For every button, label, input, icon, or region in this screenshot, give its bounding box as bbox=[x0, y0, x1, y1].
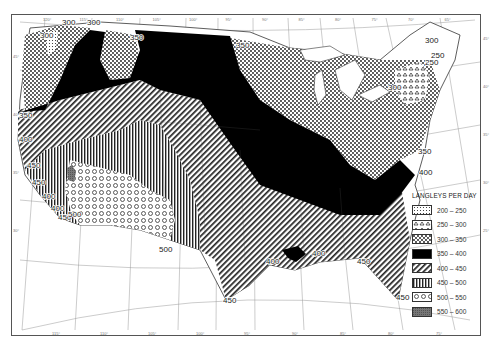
graticule-tick-label: 115° bbox=[80, 17, 88, 22]
isoline-label: 350 bbox=[130, 33, 144, 42]
isoline-label: 400 bbox=[419, 168, 433, 177]
graticule-tick-label: 115° bbox=[52, 331, 60, 336]
isoline-label: 350 bbox=[19, 111, 33, 120]
legend-item-450-500: 450 – 500 bbox=[412, 276, 488, 291]
graticule-tick-label: 120° bbox=[43, 17, 52, 22]
isoline-label: 500 bbox=[159, 245, 173, 254]
graticule-tick-label: 70° bbox=[408, 17, 414, 22]
graticule-tick-label: 95° bbox=[244, 331, 250, 336]
graticule-tick-label: 105° bbox=[148, 331, 157, 336]
graticule-tick-label: 30° bbox=[13, 228, 19, 233]
pattern-vertical-hatch-icon bbox=[412, 278, 432, 288]
graticule-tick-label: 110° bbox=[116, 17, 124, 22]
graticule-tick-label: 30° bbox=[483, 180, 489, 185]
isoline-label: 300 bbox=[388, 83, 402, 92]
isoline-label: 400 bbox=[266, 257, 280, 266]
pattern-fine-grid-icon bbox=[412, 205, 432, 215]
graticule-tick-label: 80° bbox=[335, 17, 341, 22]
pattern-dense-gray-icon bbox=[412, 307, 432, 317]
isoline-label: 450 bbox=[357, 257, 371, 266]
isoline-label: 450 bbox=[32, 178, 46, 187]
graticule-tick-label: 105° bbox=[153, 17, 162, 22]
graticule-tick-label: 85° bbox=[340, 331, 346, 336]
pattern-circles-icon bbox=[412, 292, 432, 302]
graticule-tick-label: 100° bbox=[196, 331, 205, 336]
isoline-label: 400 bbox=[42, 192, 56, 201]
isoline-label: 250 bbox=[425, 58, 439, 67]
graticule-tick-label: 45° bbox=[13, 54, 19, 59]
legend-item-250-300: 250 – 300 bbox=[412, 218, 488, 233]
graticule-tick-label: 100° bbox=[189, 17, 198, 22]
graticule-tick-label: 35° bbox=[13, 170, 19, 175]
legend: LANGLEYS PER DAY 200 – 250 250 – 300 300… bbox=[412, 192, 488, 319]
legend-item-350-400: 350 – 400 bbox=[412, 247, 488, 262]
legend-item-500-550: 500 – 550 bbox=[412, 290, 488, 305]
isoline-label: 500 bbox=[68, 210, 82, 219]
isoline-label: 450 bbox=[27, 161, 41, 170]
graticule-tick-label: 40° bbox=[13, 112, 19, 117]
isoline-label: 450 bbox=[396, 293, 410, 302]
isoline-label: 350 bbox=[418, 147, 432, 156]
graticule-tick-label: 80° bbox=[388, 331, 394, 336]
isoline-label: 400 bbox=[312, 249, 326, 258]
graticule-tick-label: 75° bbox=[372, 17, 378, 22]
legend-item-550-600: 550 – 600 bbox=[412, 305, 488, 320]
pattern-dots-icon bbox=[412, 234, 432, 244]
isoline-label: 450 bbox=[223, 296, 237, 305]
graticule-tick-label: 95° bbox=[226, 17, 232, 22]
legend-title: LANGLEYS PER DAY bbox=[412, 192, 488, 199]
graticule-tick-label: 65° bbox=[445, 17, 451, 22]
isoline-label: 400 bbox=[51, 204, 65, 213]
isoline-label: 300 bbox=[425, 36, 439, 45]
isoline-label: 350 bbox=[236, 41, 250, 50]
graticule-tick-label: 45° bbox=[483, 36, 489, 41]
graticule-tick-label: 40° bbox=[483, 84, 489, 89]
isoline-label: 300 bbox=[62, 18, 76, 27]
graticule-tick-label: 75° bbox=[436, 331, 442, 336]
isoline-label: 400 bbox=[19, 135, 33, 144]
graticule-tick-label: 110° bbox=[100, 331, 108, 336]
pattern-solid-black-icon bbox=[412, 249, 432, 259]
graticule-tick-label: 35° bbox=[483, 132, 489, 137]
legend-item-200-250: 200 – 250 bbox=[412, 203, 488, 218]
isoline-label: 300 bbox=[40, 31, 54, 40]
pattern-triangles-icon bbox=[412, 220, 432, 230]
legend-item-400-450: 400 – 450 bbox=[412, 261, 488, 276]
legend-item-300-350: 300 – 350 bbox=[412, 232, 488, 247]
graticule-tick-label: 90° bbox=[262, 17, 268, 22]
graticule-tick-label: 90° bbox=[292, 331, 298, 336]
isoline-label: 300 bbox=[87, 18, 101, 27]
graticule-tick-label: 85° bbox=[299, 17, 305, 22]
pattern-diagonal-hatch-icon bbox=[412, 263, 432, 273]
